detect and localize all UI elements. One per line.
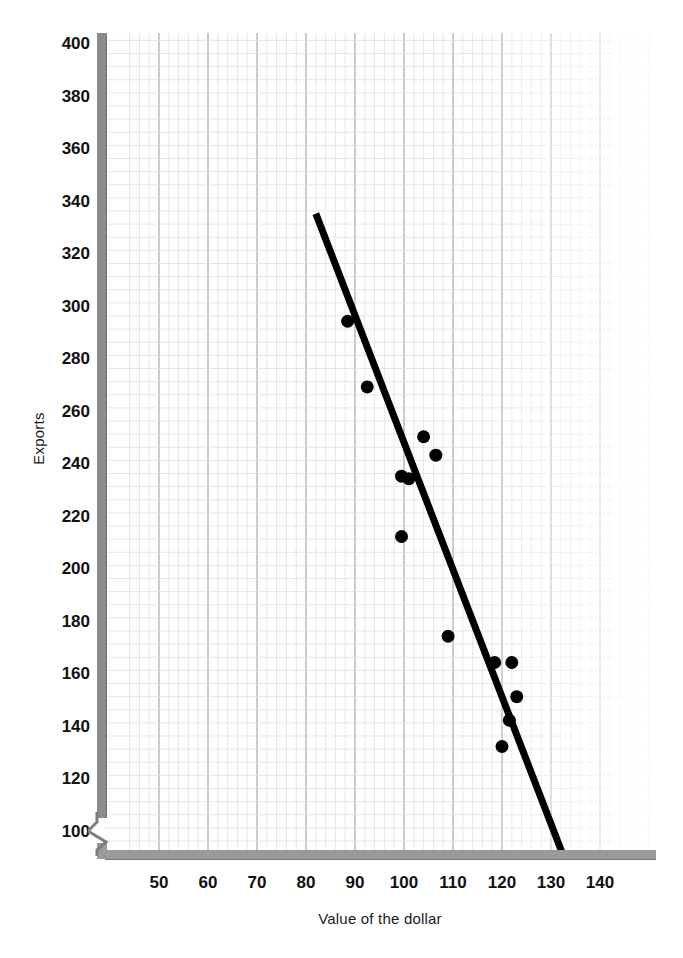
y-tick-label: 140 [32,718,90,735]
y-tick-label: 100 [32,823,90,840]
y-tick-label: 160 [32,665,90,682]
data-point [361,380,374,393]
x-axis-tick-labels: 5060708090100110120130140 [0,874,683,900]
y-axis-bar [97,33,107,818]
x-tick-label: 140 [570,874,630,891]
y-tick-label: 220 [32,508,90,525]
data-point [429,449,442,462]
data-point [510,690,523,703]
y-tick-label: 280 [32,350,90,367]
data-point [417,430,430,443]
data-point [505,656,518,669]
y-tick-label: 320 [32,245,90,262]
data-layer [105,33,650,850]
data-point [496,740,509,753]
y-tick-label: 380 [32,88,90,105]
data-point [402,472,415,485]
data-point [503,714,516,727]
y-tick-label: 400 [32,35,90,52]
y-tick-label: 340 [32,193,90,210]
y-tick-label: 200 [32,560,90,577]
y-axis-label: Exports [30,379,47,499]
trend-line [316,214,566,850]
data-point [395,530,408,543]
data-point [341,315,354,328]
scatter-chart-figure: 1001201401601802002202402602803003203403… [0,0,683,958]
y-tick-label: 360 [32,140,90,157]
y-tick-label: 300 [32,298,90,315]
y-tick-label: 180 [32,613,90,630]
data-point [442,630,455,643]
y-tick-label: 120 [32,770,90,787]
x-axis-bar [105,850,656,860]
plot-area [105,33,650,850]
x-axis-label: Value of the dollar [100,910,660,927]
data-point [488,656,501,669]
y-axis-break-icon [88,812,114,856]
